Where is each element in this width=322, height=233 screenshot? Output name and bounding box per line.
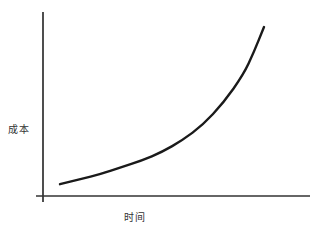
cost-time-chart bbox=[0, 0, 322, 233]
cost-curve bbox=[60, 27, 264, 184]
x-axis-label: 时间 bbox=[124, 209, 146, 224]
y-axis-label: 成本 bbox=[8, 121, 30, 136]
